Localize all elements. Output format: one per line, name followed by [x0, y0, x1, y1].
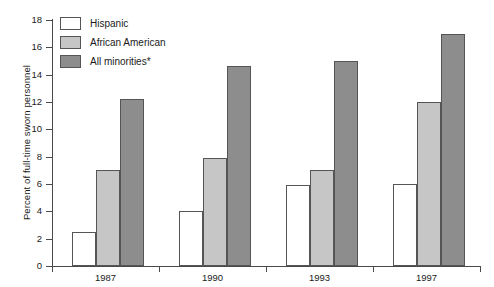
bar-1990-hispanic — [179, 211, 203, 266]
bar-1997-all-minorities- — [441, 34, 465, 266]
bar-1990-all-minorities- — [227, 66, 251, 266]
bar-1993-all-minorities- — [334, 61, 358, 266]
y-tick-label-2: 2 — [0, 234, 42, 244]
legend-item-hispanic: Hispanic — [60, 14, 166, 33]
x-tick-2 — [266, 266, 267, 272]
y-tick-label-10: 10 — [0, 124, 42, 134]
x-axis-label-1993: 1993 — [290, 272, 350, 283]
bar-1987-all-minorities- — [120, 99, 144, 266]
y-tick-label-12: 12 — [0, 97, 42, 107]
x-axis-label-1990: 1990 — [183, 272, 243, 283]
y-tick-label-0: 0 — [0, 261, 42, 271]
legend-swatch-icon — [60, 17, 81, 30]
x-tick-4 — [480, 266, 481, 272]
bar-1997-hispanic — [393, 184, 417, 266]
y-tick-label-6: 6 — [0, 179, 42, 189]
legend-label: African American — [90, 37, 166, 48]
legend: HispanicAfrican AmericanAll minorities* — [60, 14, 166, 71]
legend-swatch-icon — [60, 36, 81, 49]
legend-label: All minorities* — [90, 56, 151, 67]
x-tick-1 — [159, 266, 160, 272]
legend-item-all-minorities-: All minorities* — [60, 52, 166, 71]
bar-1990-african-american — [203, 158, 227, 266]
y-tick-label-16: 16 — [0, 42, 42, 52]
bar-1997-african-american — [417, 102, 441, 266]
x-tick-3 — [373, 266, 374, 272]
x-axis-label-1987: 1987 — [76, 272, 136, 283]
bar-1993-hispanic — [286, 185, 310, 266]
legend-label: Hispanic — [90, 18, 128, 29]
y-tick-label-4: 4 — [0, 206, 42, 216]
bar-chart: Percent of full-time sworn personnel 024… — [0, 0, 494, 287]
y-tick-label-8: 8 — [0, 152, 42, 162]
x-tick-0 — [52, 266, 53, 272]
y-tick-label-18: 18 — [0, 15, 42, 25]
bar-1987-hispanic — [72, 232, 96, 266]
bar-1993-african-american — [310, 170, 334, 266]
y-tick-label-14: 14 — [0, 70, 42, 80]
bar-1987-african-american — [96, 170, 120, 266]
legend-swatch-icon — [60, 55, 81, 68]
x-axis-label-1997: 1997 — [397, 272, 457, 283]
legend-item-african-american: African American — [60, 33, 166, 52]
